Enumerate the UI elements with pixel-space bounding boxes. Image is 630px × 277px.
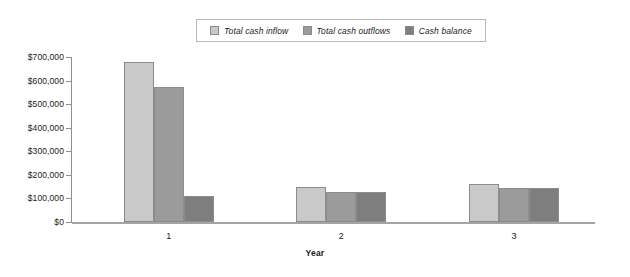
legend-label-total-cash-inflow: Total cash inflow	[224, 26, 288, 36]
bar	[326, 192, 356, 222]
bar	[296, 187, 326, 222]
x-axis-line	[72, 222, 595, 224]
y-axis-tick-mark	[66, 104, 71, 105]
bar-group	[296, 57, 386, 222]
legend-item-total-cash-inflow: Total cash inflow	[210, 26, 288, 36]
y-axis-tick-mark	[66, 151, 71, 152]
y-axis-tick-label: $0	[54, 217, 64, 227]
y-axis-tick-label: $600,000	[28, 76, 64, 86]
bar	[154, 87, 184, 222]
legend-label-cash-balance: Cash balance	[419, 26, 472, 36]
bar	[356, 192, 386, 222]
y-axis-tick-mark	[66, 222, 71, 223]
legend-item-cash-balance: Cash balance	[405, 26, 472, 36]
chart-legend: Total cash inflow Total cash outflows Ca…	[196, 19, 486, 42]
bar	[529, 188, 559, 222]
bar-group	[469, 57, 559, 222]
y-axis-tick-mark	[66, 175, 71, 176]
y-axis-tick-mark	[66, 198, 71, 199]
y-axis-tick-label: $100,000	[28, 193, 64, 203]
bar	[184, 196, 214, 222]
y-axis-tick-label: $300,000	[28, 146, 64, 156]
y-axis-tick-label: $200,000	[28, 170, 64, 180]
x-axis-tick-label: 1	[166, 231, 171, 241]
legend-swatch-total-cash-inflow	[210, 26, 219, 35]
y-axis-tick-label: $400,000	[28, 123, 64, 133]
bar	[469, 184, 499, 222]
bar	[124, 62, 154, 222]
x-axis-tick-label: 2	[339, 231, 344, 241]
y-axis-tick-label: $700,000	[28, 52, 64, 62]
y-axis-tick-label: $500,000	[28, 99, 64, 109]
y-axis-tick-mark	[66, 81, 71, 82]
x-axis-title: Year	[0, 248, 630, 258]
y-axis-tick-mark	[66, 128, 71, 129]
legend-item-total-cash-outflows: Total cash outflows	[303, 26, 391, 36]
bar-group	[124, 57, 214, 222]
bar	[499, 188, 529, 222]
legend-swatch-cash-balance	[405, 26, 414, 35]
plot-area	[72, 57, 595, 222]
legend-label-total-cash-outflows: Total cash outflows	[317, 26, 391, 36]
y-axis-tick-mark	[66, 57, 71, 58]
legend-swatch-total-cash-outflows	[303, 26, 312, 35]
x-axis-tick-label: 3	[511, 231, 516, 241]
